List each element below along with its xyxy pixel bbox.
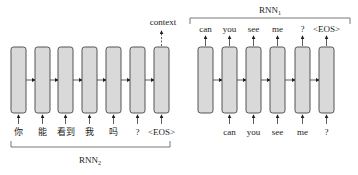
decoder-output-token: can [199, 24, 212, 34]
decoder-input-token: you [247, 127, 261, 137]
encoder-input-token: <EOS> [148, 127, 175, 137]
decoder-output-token: ? [301, 24, 305, 34]
decoder-cell [198, 47, 213, 113]
decoder-cell [222, 47, 237, 113]
encoder-cell [106, 47, 121, 113]
decoder-output-token: see [248, 24, 260, 34]
seq2seq-diagram: 你能看到我吗?<EOS> canyoucanseeyoumesee?me<EOS… [0, 0, 358, 175]
encoder-cell [58, 47, 73, 113]
encoder-bracket [11, 141, 170, 147]
decoder-cell [319, 47, 334, 113]
encoder-input-token: ? [136, 127, 140, 137]
encoder-cell [130, 47, 145, 113]
decoder-output-token: <EOS> [313, 24, 340, 34]
encoder-label: RNN2 [79, 155, 101, 166]
decoder-input-token: can [223, 127, 236, 137]
decoder-cell [270, 47, 285, 113]
decoder-input-token: ? [325, 127, 329, 137]
encoder-group: 你能看到我吗?<EOS> [11, 31, 175, 137]
encoder-cell [82, 47, 97, 113]
decoder-cell [295, 47, 310, 113]
encoder-input-token: 看到 [57, 126, 75, 137]
encoder-input-token: 我 [85, 127, 94, 137]
decoder-input-token: me [297, 127, 308, 137]
decoder-label: RNN1 [259, 5, 281, 16]
decoder-input-token: see [272, 127, 284, 137]
context-label: context [150, 17, 177, 27]
decoder-output-token: you [223, 24, 237, 34]
decoder-output-token: me [272, 24, 283, 34]
encoder-cell [35, 47, 50, 113]
encoder-input-token: 你 [14, 126, 23, 137]
encoder-input-token: 吗 [109, 127, 118, 137]
decoder-cell [246, 47, 261, 113]
encoder-cell [11, 47, 26, 113]
decoder-group: canyoucanseeyoumesee?me<EOS>? [198, 24, 340, 137]
encoder-cell [154, 47, 169, 113]
encoder-input-token: 能 [38, 126, 47, 137]
